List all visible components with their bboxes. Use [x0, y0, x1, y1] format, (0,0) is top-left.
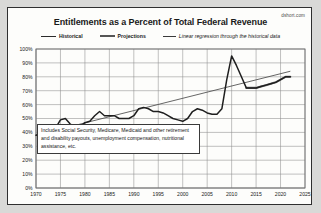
legend-label-projections: Projections — [118, 33, 146, 39]
y-axis-tick-label: 50% — [22, 115, 33, 121]
y-axis-tick-label: 60% — [22, 102, 33, 108]
x-axis-tick-label: 1990 — [128, 191, 139, 197]
chart-title: Entitlements as a Percent of Total Feder… — [8, 17, 313, 27]
y-axis-tick-label: 100% — [19, 46, 32, 52]
legend-item-historical: Historical — [41, 33, 83, 39]
y-axis-tick-label: 10% — [22, 171, 33, 177]
x-axis-tick-label: 2015 — [250, 191, 261, 197]
y-axis-tick-label: 40% — [22, 129, 33, 135]
legend-swatch-projections-icon — [100, 35, 115, 37]
y-axis-tick-label: 30% — [22, 143, 33, 149]
annotation-box: Includes Social Security, Medicare, Medi… — [37, 124, 200, 154]
legend-label-regression: Linear regression through the historical… — [179, 33, 280, 39]
x-axis-tick-label: 1975 — [55, 191, 66, 197]
y-axis-tick-label: 70% — [22, 88, 33, 94]
x-axis-tick-label: 2020 — [275, 191, 286, 197]
legend-item-regression: Linear regression through the historical… — [163, 33, 280, 39]
chart-card: dshort.com Entitlements as a Percent of … — [7, 7, 312, 205]
y-axis-tick-label: 80% — [22, 74, 33, 80]
y-axis-tick-label: 20% — [22, 157, 33, 163]
y-axis-tick-label: 90% — [22, 60, 33, 66]
x-axis-tick-label: 1995 — [153, 191, 164, 197]
x-axis-tick-label: 2010 — [226, 191, 237, 197]
x-axis-tick-label: 1985 — [104, 191, 115, 197]
x-axis-tick-label: 1970 — [30, 191, 41, 197]
legend-label-historical: Historical — [59, 33, 83, 39]
x-axis-tick-label: 2025 — [299, 191, 310, 197]
x-axis-tick-label: 2000 — [177, 191, 188, 197]
x-axis-tick-label: 2005 — [202, 191, 213, 197]
x-axis-tick-label: 1980 — [79, 191, 90, 197]
legend-swatch-regression-icon — [163, 36, 176, 37]
legend-swatch-historical-icon — [41, 36, 56, 37]
legend-item-projections: Projections — [100, 33, 146, 39]
chart-legend: Historical Projections Linear regression… — [8, 33, 313, 39]
